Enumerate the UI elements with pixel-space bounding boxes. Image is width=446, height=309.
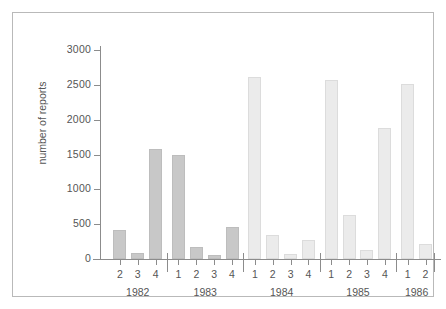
bar (378, 128, 391, 259)
x-axis-group-separator (167, 253, 168, 272)
y-axis-tick-label-wrap: 3000 (51, 50, 91, 51)
bar (419, 244, 432, 259)
bar (325, 80, 338, 259)
y-axis-tick (94, 85, 100, 86)
x-axis-quarter-label: 4 (224, 269, 240, 280)
x-axis-tick (426, 260, 427, 265)
y-axis-tick (94, 224, 100, 225)
chart-figure: number of reports 0500100015002000250030… (0, 0, 446, 309)
y-axis-tick (94, 50, 100, 51)
x-axis-quarter-label: 3 (130, 269, 146, 280)
x-axis-tick (214, 260, 215, 265)
y-axis-tick-label: 500 (55, 218, 91, 229)
y-axis-tick-label: 3000 (55, 44, 91, 55)
x-axis-quarter-label: 1 (247, 269, 263, 280)
x-axis-tick (291, 260, 292, 265)
x-axis-quarter-label: 1 (323, 269, 339, 280)
x-axis-group-separator (396, 253, 397, 272)
x-axis-year-label: 1986 (395, 287, 439, 298)
y-axis-tick-label: 0 (55, 253, 91, 264)
y-axis-tick-label: 2500 (55, 79, 91, 90)
x-axis-quarter-label: 1 (170, 269, 186, 280)
x-axis-tick (273, 260, 274, 265)
bar (302, 240, 315, 259)
x-axis-tick (178, 260, 179, 265)
x-axis-tick (385, 260, 386, 265)
x-axis-year-label: 1982 (116, 287, 160, 298)
plot-area (101, 50, 433, 259)
bar (208, 255, 221, 259)
x-axis-quarter-label: 4 (148, 269, 164, 280)
x-axis-quarter-label: 1 (400, 269, 416, 280)
x-axis-tick (138, 260, 139, 265)
y-axis-tick-label-wrap: 500 (51, 224, 91, 225)
x-axis-year-label: 1983 (183, 287, 227, 298)
bar (131, 253, 144, 259)
x-axis-group-separator (434, 253, 435, 272)
y-axis-tick (94, 120, 100, 121)
y-axis-tick (94, 259, 100, 260)
y-axis-tick-label: 2000 (55, 114, 91, 125)
x-axis-quarter-label: 2 (188, 269, 204, 280)
x-axis-tick (367, 260, 368, 265)
bar (360, 250, 373, 259)
y-axis-tick-label-wrap: 2500 (51, 85, 91, 86)
x-axis-tick (120, 260, 121, 265)
x-axis-year-label: 1985 (336, 287, 380, 298)
y-axis-tick-label: 1000 (55, 183, 91, 194)
bar (266, 235, 279, 259)
x-axis-tick (331, 260, 332, 265)
x-axis-quarter-label: 3 (359, 269, 375, 280)
x-axis-group-separator (243, 253, 244, 272)
bar (401, 84, 414, 259)
bar (149, 149, 162, 259)
y-axis-tick (94, 189, 100, 190)
figure-frame: number of reports 0500100015002000250030… (12, 12, 434, 297)
x-axis-tick (232, 260, 233, 265)
x-axis-tick (255, 260, 256, 265)
x-axis-year-label: 1984 (260, 287, 304, 298)
x-axis-quarter-label: 3 (283, 269, 299, 280)
bar (190, 247, 203, 259)
y-axis-tick-label-wrap: 0 (51, 259, 91, 260)
bar (172, 155, 185, 260)
bar (226, 227, 239, 259)
bar (248, 77, 261, 259)
x-axis-quarter-label: 2 (112, 269, 128, 280)
x-axis-quarter-label: 2 (341, 269, 357, 280)
x-axis-quarter-label: 2 (418, 269, 434, 280)
x-axis-quarter-label: 4 (377, 269, 393, 280)
y-axis-tick-label-wrap: 2000 (51, 120, 91, 121)
x-axis-tick (196, 260, 197, 265)
x-axis-tick (308, 260, 309, 265)
x-axis-tick (156, 260, 157, 265)
x-axis-quarter-label: 3 (206, 269, 222, 280)
x-axis-tick (349, 260, 350, 265)
y-axis-tick-label: 1500 (55, 149, 91, 160)
bar (343, 215, 356, 259)
y-axis-tick (94, 155, 100, 156)
bar (284, 254, 297, 259)
x-axis-quarter-label: 2 (265, 269, 281, 280)
y-axis-title: number of reports (36, 53, 48, 193)
x-axis-quarter-label: 4 (300, 269, 316, 280)
y-axis-tick-label-wrap: 1000 (51, 189, 91, 190)
bar (113, 230, 126, 259)
x-axis-line (93, 259, 441, 260)
y-axis-tick-label-wrap: 1500 (51, 155, 91, 156)
x-axis-group-separator (320, 253, 321, 272)
x-axis-tick (408, 260, 409, 265)
